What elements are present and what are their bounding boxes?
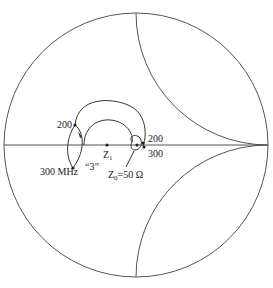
left-loop-left (68, 125, 75, 168)
z0-pointer (126, 151, 134, 167)
point-center (135, 143, 138, 146)
reactance-arc-negative (136, 145, 268, 277)
point-200-left (73, 123, 76, 126)
impedance-locus-outer (75, 101, 145, 146)
point-z1 (105, 143, 108, 146)
label-300mhz: 300 MHz (40, 166, 79, 177)
label-200-left: 200 (57, 119, 72, 130)
point-300-right (142, 145, 145, 148)
point-200-right (141, 141, 144, 144)
left-loop-right (73, 125, 82, 168)
reactance-arc-positive (136, 13, 268, 145)
impedance-locus-inner (84, 120, 132, 145)
smith-chart: 200 300 MHz “3” Z1 Z0=50 Ω 200 300 (0, 0, 273, 288)
label-z1: Z1 (103, 149, 113, 162)
label-300-right: 300 (148, 148, 163, 159)
label-200-right: 200 (148, 133, 163, 144)
label-loop-3: “3” (85, 161, 99, 172)
label-z0: Z0=50 Ω (108, 169, 143, 182)
